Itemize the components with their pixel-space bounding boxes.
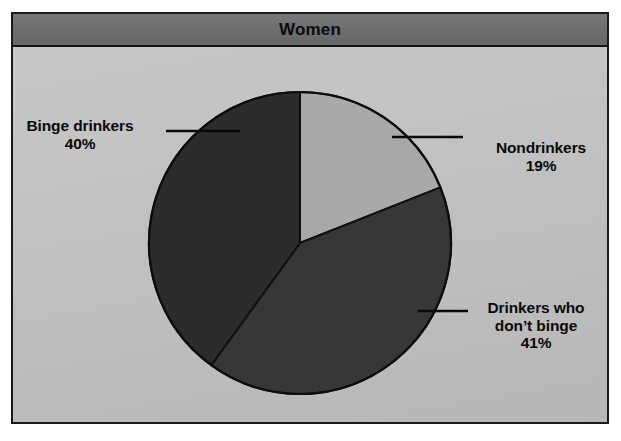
- pie-chart-svg: [0, 0, 621, 441]
- callout-binge-drinkers: Binge drinkers 40%: [0, 100, 165, 169]
- callout-nondrinkers-value: 19%: [466, 157, 616, 174]
- callout-binge-drinkers-label: Binge drinkers: [26, 117, 133, 134]
- callout-nonbinge-value: 41%: [456, 334, 616, 351]
- callout-nonbinge-label: Drinkers who don’t binge: [488, 299, 585, 333]
- callout-nondrinkers-label: Nondrinkers: [496, 139, 586, 156]
- callout-nonbinge: Drinkers who don’t binge 41%: [456, 282, 616, 369]
- chart-stage: Binge drinkers 40% Nondrinkers 19% Drink…: [0, 0, 621, 441]
- callout-nondrinkers: Nondrinkers 19%: [466, 122, 616, 191]
- callout-binge-drinkers-value: 40%: [0, 135, 165, 152]
- pie-chart-figure: Women: [0, 0, 621, 441]
